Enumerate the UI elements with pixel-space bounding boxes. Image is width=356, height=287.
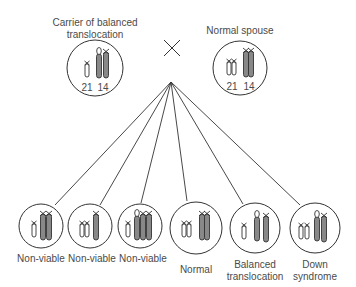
carrier-label-line2: translocation <box>45 29 145 41</box>
offspring-label-3: Non-viable <box>113 253 173 265</box>
chrom-label-14: 14 <box>96 82 110 94</box>
offspring-label-5-line1: Balanced <box>220 259 290 271</box>
translocation-diagram <box>0 0 356 287</box>
offspring-label-6-line1: Down <box>285 259 345 271</box>
cross-icon <box>164 40 180 56</box>
carrier-label: Carrier of balanced translocation <box>45 17 145 41</box>
chrom-label-14: 14 <box>242 81 256 93</box>
offspring-cell-5 <box>230 203 280 253</box>
normal-spouse-cell <box>213 41 267 95</box>
fan-lines <box>55 82 300 205</box>
offspring-cell-2 <box>68 204 112 248</box>
offspring-label-6-line2: syndrome <box>285 271 345 283</box>
offspring-cell-6 <box>290 203 340 253</box>
carrier-parent-cell <box>67 40 123 96</box>
offspring-label-6: Down syndrome <box>285 259 345 283</box>
offspring-cell-3 <box>118 204 162 248</box>
offspring-cell-1 <box>19 204 63 248</box>
chrom-label-21: 21 <box>80 82 94 94</box>
spouse-label: Normal spouse <box>195 25 285 37</box>
offspring-label-4: Normal <box>166 264 226 276</box>
carrier-label-line1: Carrier of balanced <box>45 17 145 29</box>
offspring-cell-4 <box>170 202 222 254</box>
offspring-label-5-line2: translocation <box>220 271 290 283</box>
chrom-label-21: 21 <box>225 81 239 93</box>
offspring-label-5: Balanced translocation <box>220 259 290 283</box>
